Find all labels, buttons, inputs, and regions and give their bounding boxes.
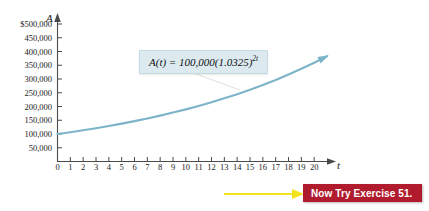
x-axis [58,158,337,165]
y-axis-tick-marks [58,24,63,148]
x-axis-tick-marks [70,157,314,162]
exponential-growth-figure: A t $500,000450,000400,000350,000300,000… [0,0,429,211]
callout-leader-line [196,74,240,90]
now-try-arrow-icon [224,188,306,200]
y-axis [54,13,61,162]
formula-exponent: 2t [252,54,258,63]
now-try-exercise-label: Now Try Exercise 51. [311,188,413,199]
formula-callout-box: A(t) = 100,000(1.0325)2t [139,50,268,74]
now-try-exercise-banner[interactable]: Now Try Exercise 51. [303,184,422,202]
formula-text: A(t) = 100,000(1.0325) [149,56,252,68]
plot-area [0,0,429,211]
